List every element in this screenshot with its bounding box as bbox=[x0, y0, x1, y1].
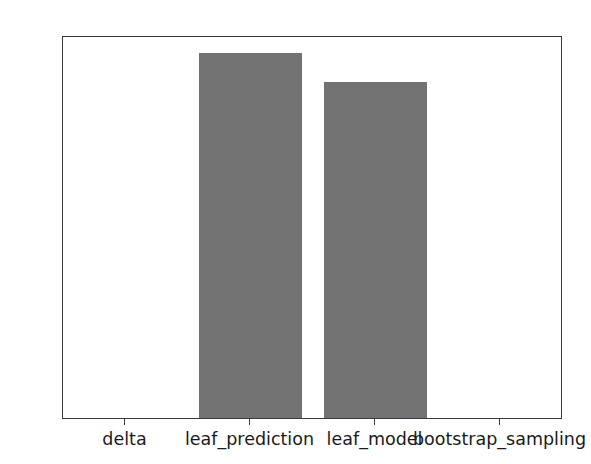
x-axis-tick-mark bbox=[374, 419, 375, 425]
x-axis-tick-mark bbox=[499, 419, 500, 425]
plot-axes-area bbox=[62, 36, 562, 419]
x-axis-tick-label: leaf_model bbox=[327, 428, 423, 450]
x-axis-tick-label: bootstrap_sampling bbox=[413, 428, 586, 450]
bar-leaf_model bbox=[324, 82, 427, 418]
x-axis-tick-mark bbox=[124, 419, 125, 425]
bar-leaf_prediction bbox=[199, 53, 302, 418]
bar-chart-figure: 020406080100 deltaleaf_predictionleaf_mo… bbox=[0, 0, 591, 464]
x-axis-tick-label: delta bbox=[102, 428, 146, 450]
x-axis-tick-label: leaf_prediction bbox=[185, 428, 314, 450]
x-axis-tick-mark bbox=[249, 419, 250, 425]
bars-layer bbox=[63, 37, 561, 418]
